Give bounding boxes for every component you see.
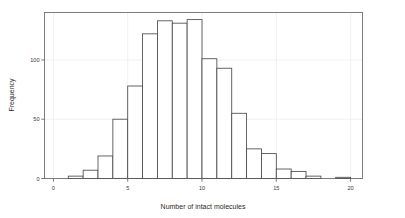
histogram-canvas: 05101520 050100 Number of intact molecul… [0,0,405,218]
histogram-bar [98,156,113,179]
histogram-bar [157,21,172,179]
histogram-bar [187,20,202,179]
histogram-bar [143,34,158,179]
x-axis-title: Number of intact molecules [161,203,246,210]
histogram-bar [261,154,276,179]
y-axis-tick-label: 100 [30,57,39,63]
histogram-bar [247,149,262,179]
histogram-bar [276,169,291,178]
histogram-bar [128,86,143,178]
x-axis-tick-label: 5 [126,185,129,191]
y-axis-title: Frequency [8,78,16,112]
histogram-bar [336,177,351,178]
x-axis-tick-label: 15 [273,185,279,191]
histogram-bar [113,119,128,178]
x-axis-tick-label: 0 [52,185,55,191]
histogram-bar [202,59,217,179]
histogram-bar [68,176,83,178]
histogram-figure: 05101520 050100 Number of intact molecul… [0,0,405,218]
histogram-bar [306,176,321,178]
y-axis-tick-label: 0 [36,176,39,182]
histogram-bar [172,23,187,178]
histogram-bar [232,113,247,178]
histogram-bar [83,170,98,178]
histogram-bar [217,68,232,178]
histogram-bar [291,171,306,178]
y-axis-tick-label: 50 [33,116,39,122]
x-axis-tick-label: 20 [347,185,353,191]
x-axis-tick-label: 10 [199,185,205,191]
